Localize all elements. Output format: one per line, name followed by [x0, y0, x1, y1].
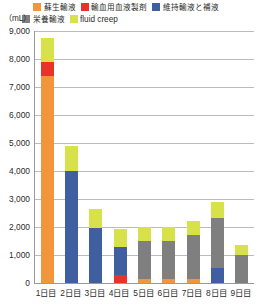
legend-item[interactable]: 輸血用血液製剤 — [81, 3, 148, 12]
bar-segment — [211, 218, 224, 267]
bar-segment — [235, 245, 248, 255]
y-axis-unit-label: （mL） — [4, 13, 31, 24]
stacked-bar[interactable] — [41, 38, 54, 283]
chart-legend: 蘇生輸液輸血用血液製剤維持輸液と補液 栄養輸液fluid creep — [0, 0, 257, 26]
stacked-bar[interactable] — [114, 229, 127, 283]
bar-segment — [65, 146, 78, 171]
bar-segment — [138, 227, 151, 241]
bar-segment — [114, 247, 127, 275]
bar-segment — [187, 279, 200, 283]
y-axis-tick-label: 7,000 — [9, 82, 30, 92]
stacked-bar[interactable] — [138, 227, 151, 283]
legend-item-label: fluid creep — [80, 15, 118, 24]
stacked-bar[interactable] — [187, 221, 200, 283]
x-axis-tick-label: 4日目 — [108, 286, 130, 298]
x-axis-tick-label: 3日目 — [84, 286, 106, 298]
x-axis-tick-label: 5日目 — [132, 286, 154, 298]
y-axis-tick-label: 6,000 — [9, 110, 30, 120]
bar-column[interactable] — [36, 31, 58, 283]
stacked-bar[interactable] — [89, 209, 102, 283]
y-axis-tick-label: 1,000 — [9, 250, 30, 260]
bar-segment — [162, 227, 175, 241]
bar-segment — [235, 255, 248, 283]
y-axis-tick-label: 5,000 — [9, 138, 30, 148]
y-axis-tick-label: 2,000 — [9, 222, 30, 232]
legend-item[interactable]: 蘇生輸液 — [33, 3, 76, 12]
bar-segment — [211, 268, 224, 283]
bar-series-group — [35, 31, 254, 283]
legend-item-label: 栄養輸液 — [33, 15, 65, 24]
y-axis-tick-label: 0 — [25, 278, 30, 288]
bar-segment — [65, 171, 78, 283]
legend-row-top: 蘇生輸液輸血用血液製剤維持輸液と補液 — [0, 1, 257, 13]
bar-column[interactable] — [158, 31, 180, 283]
bar-column[interactable] — [133, 31, 155, 283]
bar-segment — [114, 229, 127, 246]
bar-column[interactable] — [60, 31, 82, 283]
legend-row-bottom: 栄養輸液fluid creep — [0, 13, 257, 25]
bar-segment — [187, 221, 200, 235]
stacked-bar[interactable] — [162, 227, 175, 283]
legend-swatch-icon — [81, 3, 89, 11]
x-axis-tick-label: 8日目 — [205, 286, 227, 298]
bar-segment — [41, 62, 54, 76]
legend-item-label: 輸血用血液製剤 — [91, 3, 147, 12]
bar-column[interactable] — [231, 31, 253, 283]
x-axis-tick-label: 2日目 — [59, 286, 81, 298]
y-axis-tick-label: 9,000 — [9, 26, 30, 36]
stacked-bar[interactable] — [235, 245, 248, 283]
legend-item-label: 蘇生輸液 — [44, 3, 76, 12]
bar-column[interactable] — [206, 31, 228, 283]
bar-column[interactable] — [85, 31, 107, 283]
bar-segment — [41, 38, 54, 62]
stacked-bar[interactable] — [65, 146, 78, 283]
x-axis-tick-labels: 1日目2日目3日目4日目5日目6日目7日目8日目9日目 — [34, 286, 253, 302]
bar-segment — [162, 279, 175, 283]
y-axis-tick-label: 3,000 — [9, 194, 30, 204]
bar-segment — [41, 76, 54, 283]
legend-swatch-icon — [70, 15, 78, 23]
bar-column[interactable] — [182, 31, 204, 283]
bar-segment — [162, 241, 175, 279]
bar-segment — [89, 209, 102, 229]
fluid-balance-stacked-bar-chart: 蘇生輸液輸血用血液製剤維持輸液と補液 栄養輸液fluid creep （mL） … — [0, 0, 257, 307]
legend-item[interactable]: fluid creep — [70, 15, 118, 24]
y-axis-tick-label: 4,000 — [9, 166, 30, 176]
x-axis-tick-label: 6日目 — [157, 286, 179, 298]
bar-segment — [114, 275, 127, 283]
bar-segment — [138, 279, 151, 283]
stacked-bar[interactable] — [211, 202, 224, 283]
legend-swatch-icon — [33, 3, 41, 11]
x-axis-tick-label: 7日目 — [181, 286, 203, 298]
legend-item[interactable]: 維持輸液と補液 — [152, 3, 219, 12]
bar-segment — [89, 228, 102, 283]
x-axis-tick-label: 1日目 — [35, 286, 57, 298]
plot-area — [34, 31, 254, 284]
bar-segment — [211, 202, 224, 218]
legend-item-label: 維持輸液と補液 — [163, 3, 219, 12]
bar-segment — [138, 241, 151, 280]
y-axis-tick-label: 8,000 — [9, 54, 30, 64]
plot-wrapper: 9,0008,0007,0006,0005,0004,0003,0002,000… — [0, 26, 257, 307]
legend-swatch-icon — [152, 3, 160, 11]
bar-segment — [187, 235, 200, 279]
bar-column[interactable] — [109, 31, 131, 283]
x-axis-tick-label: 9日目 — [230, 286, 252, 298]
y-axis-tick-labels: 9,0008,0007,0006,0005,0004,0003,0002,000… — [0, 26, 34, 307]
